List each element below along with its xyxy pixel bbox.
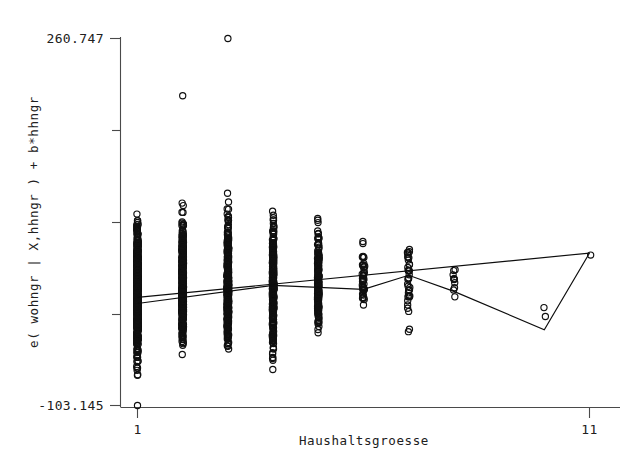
y-axis-tick-label-min: -103.145	[38, 398, 104, 413]
x-axis-title: Haushaltsgroesse	[299, 433, 429, 448]
x-axis-tick-label-max: 11	[581, 422, 597, 437]
chart-canvas: 260.747 -103.145 1 11 Haushaltsgroesse e…	[0, 0, 643, 472]
y-axis-title: e( wohngr | X,hhngr ) + b*hhngr	[26, 96, 41, 348]
partial-regression-figure: 260.747 -103.145 1 11 Haushaltsgroesse e…	[0, 0, 643, 472]
x-axis-tick-label-min: 1	[133, 422, 141, 437]
y-axis-tick-label-max: 260.747	[46, 31, 104, 46]
